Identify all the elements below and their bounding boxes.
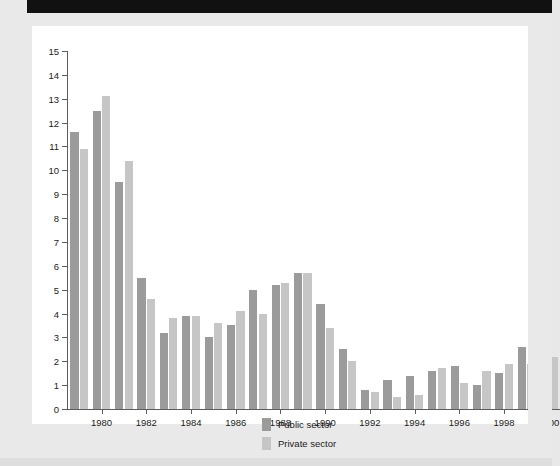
y-axis-tick — [62, 314, 67, 315]
bar-1981-private-sector — [125, 161, 133, 409]
bar-1992-private-sector — [371, 392, 379, 409]
x-axis-tick-label: 1986 — [225, 417, 246, 428]
x-axis-tick — [370, 409, 371, 414]
bar-1988-private-sector — [281, 283, 289, 409]
y-axis-tick-label: 8 — [54, 213, 59, 224]
legend-item-label: Private sector — [278, 438, 336, 449]
bar-1994-private-sector — [415, 395, 423, 409]
y-axis-tick-label: 5 — [54, 284, 59, 295]
y-axis-tick — [62, 218, 67, 219]
bar-1983-public-sector — [160, 333, 168, 409]
legend-item[interactable]: Public sector — [262, 418, 412, 431]
bars-layer — [68, 51, 560, 409]
y-axis-tick — [62, 146, 67, 147]
x-axis-tick — [236, 409, 237, 414]
bar-1998-private-sector — [505, 364, 513, 409]
bar-1986-private-sector — [236, 311, 244, 409]
bar-1991-private-sector — [348, 361, 356, 409]
legend-item-label: Public sector — [278, 419, 332, 430]
bar-1990-public-sector — [316, 304, 324, 409]
top-banner — [27, 0, 552, 13]
bar-1990-private-sector — [326, 328, 334, 409]
page-bottom-margin — [0, 458, 552, 466]
bar-1999-public-sector — [518, 347, 526, 409]
bar-1986-public-sector — [227, 325, 235, 409]
bar-1980-public-sector — [93, 111, 101, 409]
y-axis-tick-label: 12 — [48, 117, 59, 128]
bar-1984-public-sector — [182, 316, 190, 409]
bar-1996-public-sector — [451, 366, 459, 409]
y-axis-tick — [62, 51, 67, 52]
y-axis-tick-label: 9 — [54, 189, 59, 200]
x-axis-line — [67, 409, 560, 410]
bar-1989-private-sector — [303, 273, 311, 409]
y-axis-tick-label: 1 — [54, 380, 59, 391]
chart-plot-area: 0123456789101112131415 19801982198419861… — [67, 51, 560, 409]
x-axis-tick-label: 1984 — [180, 417, 201, 428]
bar-1989-public-sector — [294, 273, 302, 409]
chart-panel: 0123456789101112131415 19801982198419861… — [32, 26, 528, 424]
bar-1997-private-sector — [482, 371, 490, 409]
bar-1987-private-sector — [259, 314, 267, 409]
bar-1998-public-sector — [495, 373, 503, 409]
x-axis-tick — [415, 409, 416, 414]
y-axis-tick — [62, 361, 67, 362]
bar-1993-private-sector — [393, 397, 401, 409]
y-axis-tick — [62, 385, 67, 386]
bar-1982-private-sector — [147, 299, 155, 409]
legend-swatch-icon — [262, 437, 271, 450]
bar-1984-private-sector — [192, 316, 200, 409]
y-axis-tick — [62, 337, 67, 338]
bar-1979-public-sector — [70, 132, 78, 409]
y-axis-tick-label: 2 — [54, 356, 59, 367]
y-axis-tick-label: 15 — [48, 46, 59, 57]
y-axis-tick-label: 4 — [54, 308, 59, 319]
y-axis-tick-label: 13 — [48, 93, 59, 104]
bar-1997-public-sector — [473, 385, 481, 409]
bar-1992-public-sector — [361, 390, 369, 409]
x-axis-tick — [102, 409, 103, 414]
chart-legend: Public sectorPrivate sector — [262, 418, 412, 456]
y-axis-tick — [62, 266, 67, 267]
bar-1988-public-sector — [272, 285, 280, 409]
y-axis-tick-label: 6 — [54, 260, 59, 271]
bar-1996-private-sector — [460, 383, 468, 409]
bar-1995-public-sector — [428, 371, 436, 409]
x-axis-tick-label: 1980 — [91, 417, 112, 428]
y-axis-tick-label: 0 — [54, 404, 59, 415]
x-axis-tick — [504, 409, 505, 414]
y-axis-tick — [62, 409, 67, 410]
bar-1985-private-sector — [214, 323, 222, 409]
x-axis-tick — [325, 409, 326, 414]
page-right-margin — [528, 13, 552, 466]
y-axis-tick-label: 7 — [54, 236, 59, 247]
x-axis-tick-label: 1982 — [136, 417, 157, 428]
bar-1987-public-sector — [249, 290, 257, 409]
y-axis-tick — [62, 99, 67, 100]
bar-1981-public-sector — [115, 182, 123, 409]
y-axis-tick — [62, 242, 67, 243]
y-axis-tick — [62, 194, 67, 195]
bar-1985-public-sector — [205, 337, 213, 409]
bar-1980-private-sector — [102, 96, 110, 409]
y-axis-tick — [62, 170, 67, 171]
x-axis-tick-label: 1998 — [494, 417, 515, 428]
bar-1991-public-sector — [339, 349, 347, 409]
legend-item[interactable]: Private sector — [262, 437, 412, 450]
x-axis-tick — [191, 409, 192, 414]
y-axis-tick — [62, 123, 67, 124]
x-axis-tick-label: 1996 — [449, 417, 470, 428]
bar-1993-public-sector — [383, 380, 391, 409]
x-axis-tick — [459, 409, 460, 414]
y-axis-tick-label: 14 — [48, 69, 59, 80]
y-axis-tick — [62, 75, 67, 76]
y-axis-tick-label: 10 — [48, 165, 59, 176]
bar-1982-public-sector — [137, 278, 145, 409]
y-axis-tick-label: 11 — [49, 141, 59, 152]
x-axis-tick — [146, 409, 147, 414]
bar-1994-public-sector — [406, 376, 414, 409]
y-axis-tick-label: 3 — [54, 332, 59, 343]
y-axis-tick — [62, 290, 67, 291]
bar-1983-private-sector — [169, 318, 177, 409]
